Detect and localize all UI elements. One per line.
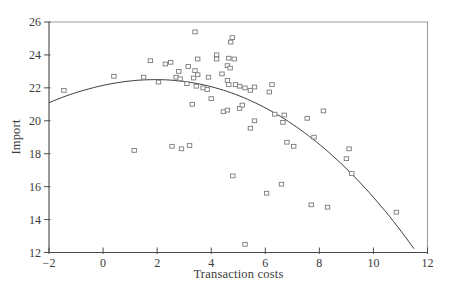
data-point — [194, 84, 198, 88]
data-point — [347, 147, 351, 151]
data-point — [267, 90, 271, 94]
data-point — [279, 182, 283, 186]
data-point — [177, 70, 181, 74]
data-point — [230, 36, 234, 40]
data-point — [209, 97, 213, 101]
scatter-plot-figure: −20246810121214161820222426 Transaction … — [0, 0, 450, 295]
data-point — [156, 80, 160, 84]
data-point — [225, 79, 229, 83]
data-point — [112, 74, 116, 78]
data-point — [321, 109, 325, 113]
data-point — [305, 116, 309, 120]
axis-lines — [49, 22, 428, 253]
data-point — [232, 57, 236, 61]
data-point — [214, 53, 218, 57]
data-point — [190, 102, 194, 106]
data-point — [132, 149, 136, 153]
y-tick-label: 18 — [29, 147, 41, 161]
data-point — [243, 242, 247, 246]
data-point — [179, 147, 183, 151]
y-tick-label: 26 — [29, 15, 41, 29]
data-point — [309, 203, 313, 207]
data-point — [185, 82, 189, 86]
data-point — [187, 144, 191, 148]
fitted-curve — [49, 80, 414, 249]
y-tick-label: 20 — [29, 114, 41, 128]
plot-frame — [49, 22, 428, 253]
y-axis-title: Import — [9, 119, 24, 154]
data-point — [205, 88, 209, 92]
data-point — [169, 60, 173, 64]
data-point — [186, 65, 190, 69]
data-point — [196, 57, 200, 61]
data-point — [170, 144, 174, 148]
data-point — [312, 135, 316, 139]
data-point — [252, 119, 256, 123]
data-point — [193, 69, 197, 73]
data-point — [270, 83, 274, 87]
y-tick-label: 24 — [29, 48, 41, 62]
data-point — [62, 88, 66, 92]
y-tick-label: 14 — [29, 213, 41, 227]
data-point — [163, 62, 167, 66]
data-point — [225, 108, 229, 112]
data-point — [264, 191, 268, 195]
chart-canvas: −20246810121214161820222426 — [0, 0, 450, 295]
data-point — [281, 121, 285, 125]
data-point — [227, 83, 231, 87]
data-point — [285, 140, 289, 144]
data-point — [206, 75, 210, 79]
data-point — [148, 59, 152, 63]
data-point — [220, 72, 224, 76]
x-axis-title: Transaction costs — [49, 267, 428, 282]
data-point — [240, 103, 244, 107]
data-point — [344, 157, 348, 161]
data-point — [214, 57, 218, 61]
data-point — [231, 174, 235, 178]
data-point — [196, 73, 200, 77]
data-point — [243, 86, 247, 90]
y-tick-label: 22 — [29, 81, 41, 95]
y-tick-label: 12 — [29, 246, 41, 260]
data-point — [193, 30, 197, 34]
data-point — [229, 40, 233, 44]
data-point — [252, 85, 256, 89]
data-point — [394, 210, 398, 214]
data-point — [248, 126, 252, 130]
data-point — [228, 66, 232, 70]
y-tick-label: 16 — [29, 180, 41, 194]
data-point — [282, 113, 286, 117]
data-point — [292, 144, 296, 148]
data-point — [273, 112, 277, 116]
data-point — [178, 77, 182, 81]
data-point — [237, 84, 241, 88]
data-point — [350, 172, 354, 176]
data-point — [141, 75, 145, 79]
data-point — [227, 56, 231, 60]
data-point — [325, 205, 329, 209]
